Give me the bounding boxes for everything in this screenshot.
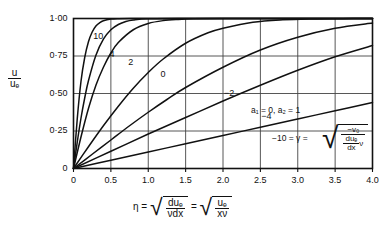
radical-sign-icon-3: √ (322, 126, 338, 150)
radical-sign-icon-2: √ (200, 198, 213, 216)
x-tick-label-5: 2.5 (247, 176, 273, 185)
curve-label-2: 2 (128, 58, 133, 67)
x-tick-label-0: 0 (61, 176, 87, 185)
curve-label-1: 4 (110, 50, 115, 59)
gamma-formula-den-den: dx (343, 144, 359, 152)
annotation-gamma-formula: √ −v₀ duₑ dx ν (322, 124, 368, 152)
x-tick-label-2: 1.0 (135, 176, 161, 185)
x-axis-title-equals-2: = (191, 201, 197, 212)
gamma-formula-denominator: duₑ dx ν (341, 135, 365, 152)
curve-label-4: −2 (224, 89, 234, 98)
y-tick-label-0: 0 (34, 164, 68, 173)
radical-sign-icon: √ (150, 198, 163, 216)
x-tick-label-6: 3.0 (285, 176, 311, 185)
y-tick-label-3: 0·75 (34, 51, 68, 60)
x-axis-title-r1-den: νdx (166, 209, 186, 219)
gamma-formula-nu: ν (359, 139, 363, 148)
curve-label-5: −4 (261, 112, 271, 121)
chart-figure: u uₑ η = √ duₑ νdx = √ uₑ xν a₁ = 0, a₂ … (0, 0, 388, 236)
curve-label-0: 10 (93, 32, 103, 41)
y-tick-label-4: 1·00 (34, 14, 68, 23)
x-axis-title-equals-1: = (141, 201, 147, 212)
y-tick-label-1: 0·25 (34, 126, 68, 135)
x-tick-label-1: 0.5 (98, 176, 124, 185)
x-axis-title-eta: η (133, 201, 139, 212)
x-tick-label-4: 2.0 (210, 176, 236, 185)
y-axis-title-denominator: uₑ (8, 79, 21, 89)
x-axis-title-r2-den: xν (215, 209, 229, 219)
annotation-a-parameters: a₁ = 0, a₂ = 1 (251, 106, 300, 115)
y-axis-title: u uₑ (8, 68, 21, 89)
x-axis-title: η = √ duₑ νdx = √ uₑ xν (133, 196, 232, 219)
x-tick-label-7: 3.5 (322, 176, 348, 185)
x-tick-label-8: 4.0 (360, 176, 386, 185)
x-tick-label-3: 1.5 (173, 176, 199, 185)
annotation-gamma-equals: −10 = γ = (272, 134, 308, 143)
y-tick-label-2: 0·50 (34, 89, 68, 98)
curve-label-3: 0 (160, 70, 165, 79)
